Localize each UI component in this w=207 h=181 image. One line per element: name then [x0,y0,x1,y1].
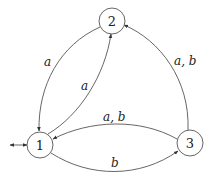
state-1: 1 [27,132,53,158]
state-2-label: 2 [108,14,116,29]
edge-label-1-to-2: a [81,79,88,93]
automaton-diagram: a a a, b a, b b 1 2 3 [0,0,207,181]
state-1-label: 1 [36,138,44,153]
edge-2-to-1 [39,27,100,131]
state-3-label: 3 [186,136,194,151]
edge-1-to-2 [48,34,111,134]
edge-label-2-to-1: a [44,55,51,69]
edge-3-to-1 [53,124,177,139]
edge-label-3-to-2: a, b [174,54,196,68]
state-2: 2 [99,8,125,34]
edge-label-3-to-1: a, b [103,110,125,124]
edge-label-1-to-3: b [111,156,119,170]
state-3: 3 [177,130,203,156]
edge-3-to-2 [124,25,188,130]
